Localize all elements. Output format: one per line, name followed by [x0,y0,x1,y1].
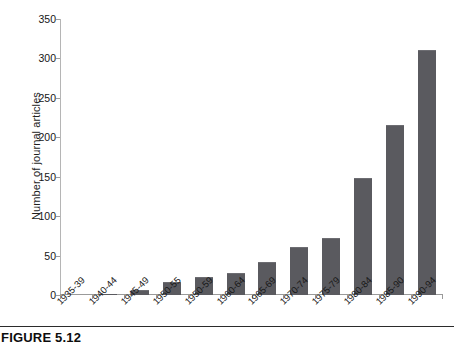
x-label-slot: 1960-64 [220,297,252,343]
x-label-slot: 1950-59 [188,297,220,343]
bar-slot [347,19,379,295]
bar-slot [124,19,156,295]
x-label-slot: 1990-94 [411,297,443,343]
y-axis-tick-label: 0 [30,289,56,301]
bar-slot [60,19,92,295]
x-label-slot: 1940-44 [92,297,124,343]
x-axis-category-labels: 1935-391940-441945-491950-551950-591960-… [60,297,443,343]
bar-slot [283,19,315,295]
bar-slot [220,19,252,295]
bar-slot [188,19,220,295]
y-axis-tick-mark [56,256,60,257]
y-axis-tick-mark [56,19,60,20]
y-axis-tick-mark [56,137,60,138]
bar-slot [379,19,411,295]
y-axis-tick-mark [56,216,60,217]
y-axis-tick-mark [56,177,60,178]
x-label-slot: 1985-90 [379,297,411,343]
x-label-slot: 1945-49 [124,297,156,343]
x-label-slot: 1975-79 [315,297,347,343]
bar-slot [156,19,188,295]
bar-slot [92,19,124,295]
bar[interactable] [418,50,436,295]
y-axis-tick-label: 350 [30,13,56,25]
figure-caption: FIGURE 5.12 [1,330,81,345]
bar-slot [252,19,284,295]
x-label-slot: 1965-69 [252,297,284,343]
caption-divider [0,326,454,327]
figure-container: 050100150200250300350 Number of journal … [0,0,454,350]
y-axis-tick-mark [56,98,60,99]
bar-slot [411,19,443,295]
y-axis-title: Number of journal articles [30,56,42,256]
plot-area [60,19,443,295]
bar-series [60,19,443,295]
bar[interactable] [386,125,404,295]
bar-slot [315,19,347,295]
y-axis-tick-mark [56,58,60,59]
x-label-slot: 1950-55 [156,297,188,343]
x-label-slot: 1970-74 [283,297,315,343]
x-label-slot: 1980-84 [347,297,379,343]
